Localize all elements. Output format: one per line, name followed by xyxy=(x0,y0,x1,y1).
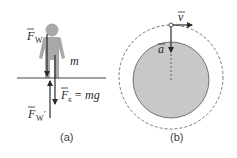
panel-a: F W m F g = mg F W ′ (a) xyxy=(17,24,106,144)
caption-b: (b) xyxy=(170,131,183,143)
svg-text:= mg: = mg xyxy=(74,88,100,102)
svg-text:W: W xyxy=(35,36,43,45)
svg-text:W: W xyxy=(36,114,44,123)
svg-text:a: a xyxy=(158,42,164,56)
fw-label: F W xyxy=(26,29,43,45)
fg-label: F g = mg xyxy=(60,88,100,103)
svg-text:′: ′ xyxy=(44,109,46,119)
caption-a: (a) xyxy=(60,131,73,143)
object-point xyxy=(169,23,173,27)
panel-b: v a (b) xyxy=(119,10,223,143)
svg-text:F: F xyxy=(27,107,36,121)
velocity-label: v xyxy=(178,10,185,24)
svg-text:F: F xyxy=(26,29,35,43)
svg-text:v: v xyxy=(178,10,184,24)
acceleration-label: a xyxy=(158,42,165,56)
person-figure xyxy=(39,24,65,79)
fw-prime-label: F W ′ xyxy=(27,107,46,123)
mass-label: m xyxy=(70,54,79,68)
physics-diagram: F W m F g = mg F W ′ (a) xyxy=(0,0,237,158)
svg-text:g: g xyxy=(68,95,72,103)
